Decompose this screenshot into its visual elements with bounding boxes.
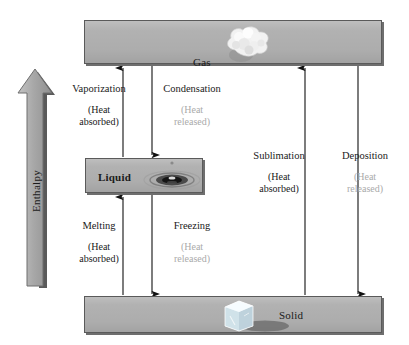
heat-line-2: released) [149,254,235,265]
vapor-cloud-icon [221,24,277,64]
process-title-sublimation: Sublimation [236,150,322,161]
heat-line-2: released) [322,184,408,195]
heat-line-2: absorbed) [56,254,142,265]
heat-line-2: released) [149,117,235,128]
heat-line-1: (Heat [56,242,142,253]
heat-line-2: absorbed) [236,184,322,195]
process-heat-melting: (Heat absorbed) [56,242,142,264]
process-title-freezing: Freezing [149,220,235,231]
solid-box-shading [85,297,381,332]
process-label-deposition: Deposition (Heat released) [322,150,408,194]
process-heat-condensation: (Heat released) [149,105,235,127]
process-label-freezing: Freezing (Heat released) [149,220,235,264]
process-label-sublimation: Sublimation (Heat absorbed) [236,150,322,194]
process-title-deposition: Deposition [322,150,408,161]
phase-box-solid: Solid [84,296,382,333]
process-title-vaporization: Vaporization [56,83,142,94]
water-droplet-ripple-icon [142,155,202,195]
heat-line-1: (Heat [149,242,235,253]
process-title-melting: Melting [56,220,142,231]
gas-box-shading [85,21,381,63]
process-title-condensation: Condensation [149,83,235,94]
enthalpy-axis-arrow [14,66,58,290]
process-label-condensation: Condensation (Heat released) [149,83,235,127]
process-heat-deposition: (Heat released) [322,172,408,194]
heat-line-2: absorbed) [56,117,142,128]
phase-change-diagram: Enthalpy Gas Liquid [0,0,409,345]
heat-line-1: (Heat [236,172,322,183]
phase-box-gas: Gas [84,20,382,64]
process-label-vaporization: Vaporization (Heat absorbed) [56,83,142,127]
process-heat-sublimation: (Heat absorbed) [236,172,322,194]
process-heat-freezing: (Heat released) [149,242,235,264]
process-label-melting: Melting (Heat absorbed) [56,220,142,264]
heat-line-1: (Heat [56,105,142,116]
phase-box-liquid: Liquid [85,158,203,193]
phase-label-gas: Gas [193,56,211,68]
phase-label-solid: Solid [279,309,303,321]
heat-line-1: (Heat [322,172,408,183]
heat-line-1: (Heat [149,105,235,116]
phase-label-liquid: Liquid [98,171,131,183]
process-heat-vaporization: (Heat absorbed) [56,105,142,127]
